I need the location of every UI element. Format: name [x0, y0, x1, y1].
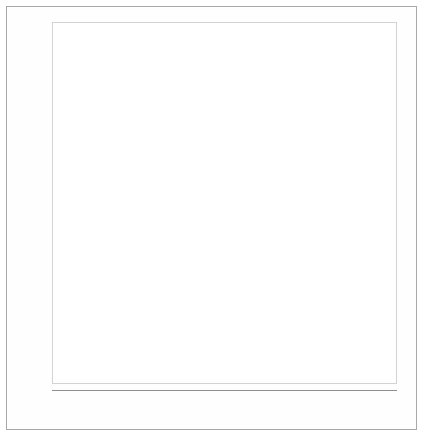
plot-panel — [52, 22, 397, 384]
chart-figure — [0, 0, 425, 438]
x-axis-line — [52, 390, 397, 391]
scatter-plot-svg — [53, 23, 396, 383]
